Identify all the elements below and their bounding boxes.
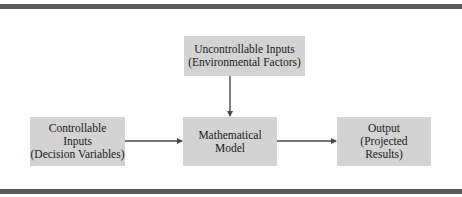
top-rule bbox=[0, 4, 462, 9]
controllable-inputs-box: Controllable Inputs (Decision Variables) bbox=[30, 117, 125, 166]
uncontrollable-inputs-label-line-2: (Environmental Factors) bbox=[188, 56, 301, 69]
mathematical-model-label-line-1: Mathematical bbox=[198, 129, 261, 142]
output-label-line-1: Output bbox=[360, 122, 407, 135]
uncontrollable-inputs-box: Uncontrollable Inputs (Environmental Fac… bbox=[184, 36, 305, 76]
controllable-inputs-label-line-3: (Decision Variables) bbox=[31, 148, 125, 161]
controllable-inputs-label-line-2: Inputs bbox=[31, 135, 125, 148]
controllable-inputs-label-line-1: Controllable bbox=[31, 122, 125, 135]
output-label-line-2: (Projected bbox=[360, 135, 407, 148]
connector-arrows bbox=[0, 0, 462, 197]
output-box: Output (Projected Results) bbox=[337, 117, 431, 166]
mathematical-model-box: Mathematical Model bbox=[183, 117, 277, 166]
output-label-line-3: Results) bbox=[360, 148, 407, 161]
bottom-rule bbox=[0, 189, 462, 194]
mathematical-model-label-line-2: Model bbox=[198, 142, 261, 155]
uncontrollable-inputs-label-line-1: Uncontrollable Inputs bbox=[188, 43, 301, 56]
